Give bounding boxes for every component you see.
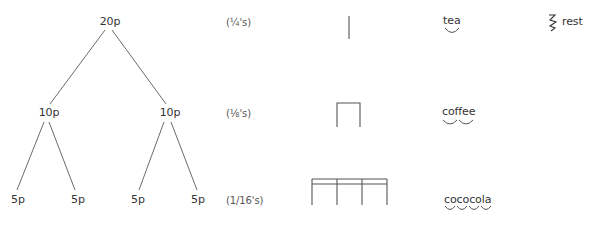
word-tea: tea: [443, 15, 461, 27]
fraction-eighths: (⅛'s): [226, 108, 251, 120]
tree-node-right: 10p: [160, 107, 181, 119]
semiquaver-group-icon: [312, 179, 387, 205]
crotchet-rest-icon: [549, 15, 556, 31]
tree-leaf-1: 5p: [11, 194, 25, 206]
word-cococola: cococola: [444, 194, 491, 206]
coffee-syllable-arc-icon: [443, 120, 457, 124]
cococola-syllable-arc-icon: [457, 206, 467, 210]
cococola-syllable-arc-icon: [481, 206, 491, 210]
tea-syllable-arc-icon: [445, 28, 459, 33]
tree-lines: [0, 0, 595, 226]
rhythm-value-diagram: 20p 10p 10p 5p 5p 5p 5p (¼'s) (⅛'s) (1/1…: [0, 0, 595, 226]
cococola-syllable-arc-icon: [445, 206, 455, 210]
tree-leaf-4: 5p: [191, 194, 205, 206]
rest-label: rest: [562, 16, 583, 28]
coffee-syllable-arc-icon: [459, 120, 473, 124]
tree-node-root: 20p: [100, 16, 121, 28]
tree-node-left: 10p: [39, 107, 60, 119]
fraction-quarters: (¼'s): [226, 17, 251, 29]
quaver-pair-icon: [337, 103, 360, 127]
tree-leaf-2: 5p: [71, 194, 85, 206]
cococola-syllable-arc-icon: [469, 206, 479, 210]
word-coffee: coffee: [442, 106, 475, 118]
fraction-sixteenths: (1/16's): [226, 195, 263, 207]
tree-leaf-3: 5p: [131, 194, 145, 206]
